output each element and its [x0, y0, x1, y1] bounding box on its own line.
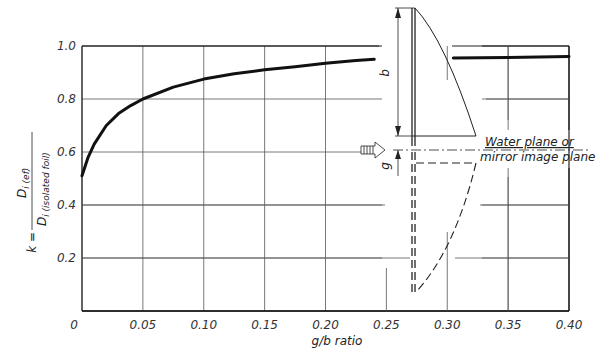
y-tick-label: 0.4: [57, 198, 76, 212]
y-tick-labels: 0.20.40.60.81.0: [57, 39, 76, 265]
y-label-k: k =: [25, 232, 39, 253]
y-axis-label: k = Di (ef) Di (isolated foil): [15, 132, 51, 253]
x-tick-label: 0.15: [251, 318, 278, 332]
y-label-denominator: Di (isolated foil): [35, 152, 51, 226]
x-tick-label: 0.25: [373, 318, 400, 332]
water-plane-label-line2: mirror image plane: [480, 150, 595, 164]
hatched-arrow-icon: [361, 142, 385, 158]
series-line: [453, 57, 569, 58]
x-tick-label: 0.20: [312, 318, 339, 332]
x-tick-label: 0.40: [556, 318, 583, 332]
y-tick-label: 0.6: [57, 145, 76, 159]
x-axis-label: g/b ratio: [312, 334, 363, 348]
y-tick-label: 0.8: [57, 92, 76, 106]
water-plane-label-line1: Water plane or: [485, 135, 575, 149]
x-tick-labels: 00.050.100.150.200.250.300.350.40: [70, 318, 583, 332]
dimension-g-label: g: [378, 162, 392, 170]
x-tick-label: 0.35: [495, 318, 522, 332]
chart: 00.050.100.150.200.250.300.350.40 0.20.4…: [0, 0, 608, 355]
series-line: [82, 59, 374, 176]
y-label-numerator: Di (ef): [15, 168, 31, 198]
dimension-b-label: b: [378, 69, 392, 77]
y-tick-label: 0.2: [57, 251, 76, 265]
y-tick-label: 1.0: [57, 39, 76, 53]
grid: [82, 46, 569, 311]
mask-top: [470, 0, 478, 42]
x-tick-label: 0.10: [190, 318, 217, 332]
x-tick-label: 0.05: [130, 318, 157, 332]
x-tick-label: 0.30: [434, 318, 461, 332]
x-tick-label: 0: [70, 318, 78, 332]
